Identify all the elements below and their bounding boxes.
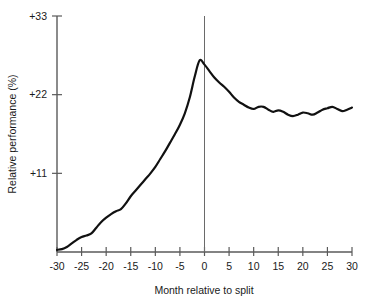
x-tick-label: -15 bbox=[123, 260, 138, 272]
x-tick-label: -10 bbox=[148, 260, 163, 272]
x-tick-label: -30 bbox=[49, 260, 64, 272]
x-tick-label: 30 bbox=[346, 260, 358, 272]
y-tick-label: +33 bbox=[29, 10, 47, 22]
x-tick-label: 10 bbox=[248, 260, 260, 272]
y-axis-tick-labels: +11+22+33 bbox=[29, 10, 47, 179]
x-tick-label: -25 bbox=[74, 260, 89, 272]
x-tick-label: 20 bbox=[297, 260, 309, 272]
y-tick-label: +11 bbox=[30, 167, 47, 179]
y-tick-label: +22 bbox=[29, 88, 47, 100]
x-tick-label: 5 bbox=[226, 260, 232, 272]
relative-performance-line-chart: +11+22+33 -30-25-20-15-10-5051015202530 … bbox=[0, 0, 367, 304]
x-tick-label: -5 bbox=[175, 260, 184, 272]
x-tick-label: 25 bbox=[322, 260, 334, 272]
x-axis-title: Month relative to split bbox=[154, 284, 253, 296]
y-axis-title: Relative performance (%) bbox=[6, 74, 18, 193]
x-tick-label: 0 bbox=[202, 260, 208, 272]
chart-container: +11+22+33 -30-25-20-15-10-5051015202530 … bbox=[0, 0, 367, 304]
x-tick-label: -20 bbox=[99, 260, 114, 272]
x-tick-label: 15 bbox=[272, 260, 284, 272]
x-axis-tick-labels: -30-25-20-15-10-5051015202530 bbox=[49, 260, 358, 272]
